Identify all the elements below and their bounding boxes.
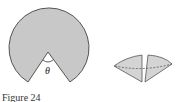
cone-formed (114, 55, 172, 82)
figure-diagram: θ (0, 0, 189, 102)
angle-label: θ (45, 65, 50, 76)
figure-caption: Figure 24 (2, 93, 41, 102)
circular-sector-with-cutout: θ (9, 8, 89, 82)
angle-arc (43, 60, 53, 62)
